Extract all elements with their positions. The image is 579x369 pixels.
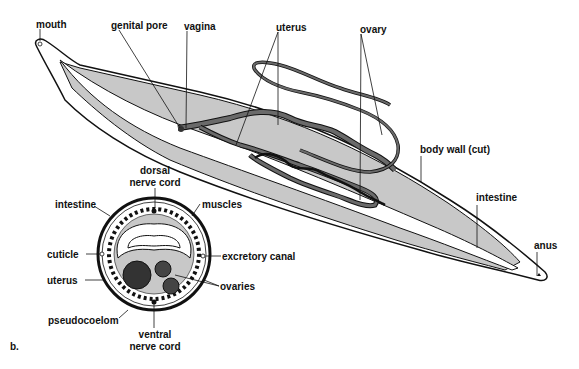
label-anus: anus (534, 240, 557, 251)
label-dorsal-nerve-cord-1: dorsal (125, 165, 185, 176)
nematode-anatomy-diagram: mouth genital pore vagina uterus ovary b… (0, 0, 579, 369)
label-pseudocoelom: pseudocoelom (48, 315, 119, 326)
diagram-drawing (0, 0, 579, 369)
label-ventral-nerve-cord-1: ventral (125, 329, 185, 340)
label-uterus: uterus (276, 22, 307, 33)
label-ovaries: ovaries (220, 281, 255, 292)
label-muscles: muscles (202, 199, 242, 210)
label-uterus-cross: uterus (47, 275, 78, 286)
label-vagina: vagina (184, 21, 216, 32)
panel-label: b. (10, 341, 19, 352)
label-dorsal-nerve-cord-2: nerve cord (125, 177, 185, 188)
label-genital-pore: genital pore (111, 20, 168, 31)
label-body-wall: body wall (cut) (420, 144, 490, 155)
label-ovary: ovary (360, 24, 387, 35)
label-mouth: mouth (36, 19, 67, 30)
label-intestine-long: intestine (476, 192, 517, 203)
label-excretory-canal: excretory canal (222, 251, 295, 262)
label-ventral-nerve-cord-2: nerve cord (125, 341, 185, 352)
label-cuticle: cuticle (47, 249, 79, 260)
label-intestine-cross: intestine (55, 199, 96, 210)
